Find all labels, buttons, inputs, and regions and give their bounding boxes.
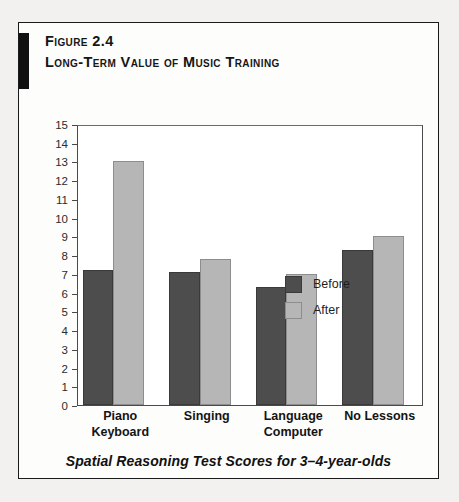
y-axis-tick-label: 2 xyxy=(62,361,68,377)
bar-group xyxy=(338,126,425,405)
figure-title-block: Figure 2.4 Long-Term Value of Music Trai… xyxy=(19,33,438,89)
y-axis-tick-label: 0 xyxy=(62,398,68,414)
y-axis-tick-label: 1 xyxy=(62,379,68,395)
y-axis-tick-label: 10 xyxy=(55,211,68,227)
x-axis-category-line: Computer xyxy=(250,425,337,441)
y-axis-tick-label: 13 xyxy=(55,154,68,170)
title-accent-bar xyxy=(19,33,29,89)
chart-legend: BeforeAfter xyxy=(285,271,350,323)
y-axis-tick-label: 7 xyxy=(62,267,68,283)
bar-group xyxy=(78,126,165,405)
x-axis-category-line: No Lessons xyxy=(337,409,424,425)
y-axis-tick-label: 5 xyxy=(62,304,68,320)
bar-before xyxy=(169,272,200,405)
x-axis-category-label: LanguageComputer xyxy=(250,409,337,440)
y-axis-tick-label: 11 xyxy=(56,192,68,208)
y-axis-tick-mark xyxy=(72,406,77,407)
figure-caption: Spatial Reasoning Test Scores for 3–4-ye… xyxy=(19,453,438,469)
legend-label: Before xyxy=(313,277,350,291)
y-axis-tick-label: 14 xyxy=(55,136,68,152)
x-axis-category-line: Language xyxy=(250,409,337,425)
bar-before xyxy=(256,287,287,405)
legend-swatch-after xyxy=(285,302,302,319)
figure-container: Figure 2.4 Long-Term Value of Music Trai… xyxy=(18,22,439,479)
y-axis-tick-label: 8 xyxy=(62,248,68,264)
y-axis-tick-label: 15 xyxy=(55,117,68,133)
bar-group xyxy=(165,126,252,405)
legend-label: After xyxy=(313,303,339,317)
plot-frame: BeforeAfter xyxy=(77,125,423,406)
x-axis-category-label: Singing xyxy=(164,409,251,425)
x-axis-category-label: No Lessons xyxy=(337,409,424,425)
bar-before xyxy=(83,270,114,405)
x-axis-category-line: Piano xyxy=(77,409,164,425)
y-axis-tick-label: 9 xyxy=(62,229,68,245)
bar-after xyxy=(373,236,404,405)
figure-number: Figure 2.4 xyxy=(45,31,280,52)
legend-entry: Before xyxy=(285,271,350,297)
figure-title: Long-Term Value of Music Training xyxy=(45,52,280,73)
x-axis-category-label: PianoKeyboard xyxy=(77,409,164,440)
x-axis-category-line: Keyboard xyxy=(77,425,164,441)
bar-after xyxy=(113,161,144,405)
y-axis: 1514131211109876543210 xyxy=(19,125,77,406)
plot-area xyxy=(78,126,422,405)
y-axis-tick-label: 12 xyxy=(55,173,68,189)
legend-swatch-before xyxy=(285,276,302,293)
y-axis-tick-label: 3 xyxy=(62,342,68,358)
title-text-wrap: Figure 2.4 Long-Term Value of Music Trai… xyxy=(45,31,280,73)
y-axis-tick-label: 6 xyxy=(62,286,68,302)
bar-group xyxy=(251,126,338,405)
bar-after xyxy=(200,259,231,405)
x-axis-category-line: Singing xyxy=(164,409,251,425)
legend-entry: After xyxy=(285,297,350,323)
y-axis-tick-label: 4 xyxy=(62,323,68,339)
x-axis: PianoKeyboardSingingLanguageComputerNo L… xyxy=(77,409,423,449)
